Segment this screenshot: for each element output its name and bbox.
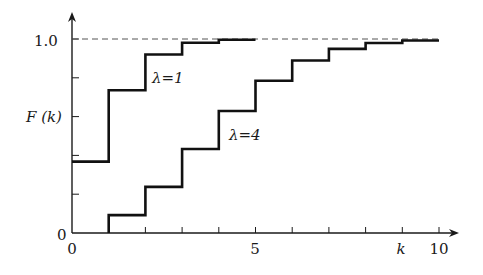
axes	[68, 12, 459, 237]
series-label-lambda-4: λ=4	[228, 126, 261, 144]
y-axis-label: F (k)	[25, 108, 62, 126]
y-tick-label-0: 0	[57, 226, 67, 244]
x-tick-label-10: 10	[429, 240, 448, 258]
series-lambda-1	[72, 40, 256, 162]
x-tick-label-0: 0	[67, 240, 77, 258]
cdf-step-chart: 1.0 0 0 5 10 k F (k) λ=1 λ=4	[0, 0, 483, 275]
x-tick-label-5: 5	[250, 240, 260, 258]
series-label-lambda-1: λ=1	[151, 69, 184, 87]
x-axis-label: k	[396, 240, 405, 258]
y-tick-label-1: 1.0	[34, 32, 58, 50]
